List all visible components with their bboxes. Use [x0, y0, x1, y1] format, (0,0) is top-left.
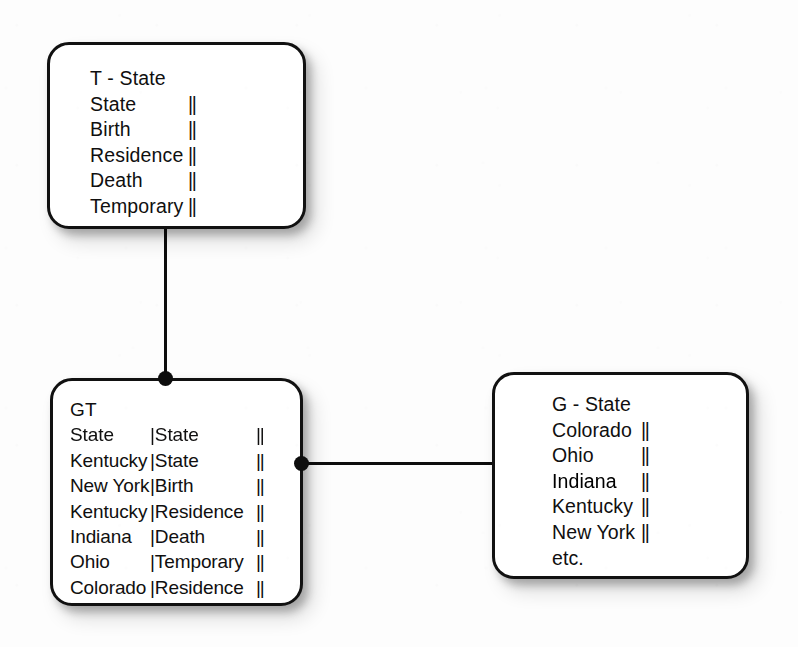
node-t-state-content: T - State State || Birth || Residence ||…: [50, 45, 343, 219]
node-g-state-row: New York ||: [552, 520, 798, 546]
gt-state-label: Ohio: [70, 549, 150, 574]
g-state-bars: ||: [641, 418, 649, 444]
node-g-state-title-text: G - State: [552, 392, 631, 418]
node-gt[interactable]: GT State |State || Kentucky |State || Ne…: [50, 378, 303, 606]
node-g-state-row: Kentucky ||: [552, 494, 798, 520]
node-t-state-row: Death ||: [90, 168, 343, 194]
gt-state-label: Kentucky: [70, 499, 150, 524]
g-state-label: Indiana: [552, 469, 641, 495]
node-t-state[interactable]: T - State State || Birth || Residence ||…: [47, 42, 306, 229]
node-g-state-row: Indiana ||: [552, 469, 798, 495]
attribute-label: Birth: [90, 117, 188, 143]
g-state-bars: ||: [641, 494, 649, 520]
attribute-label: State: [90, 92, 188, 118]
edge-endpoint-dot-gt-top: [158, 371, 173, 386]
node-t-state-title: T - State: [90, 66, 343, 92]
edge-tstate-to-gt: [164, 226, 167, 380]
g-state-label: Kentucky: [552, 494, 641, 520]
node-gt-row: New York |Birth ||: [70, 473, 317, 498]
gt-state-label: Indiana: [70, 524, 150, 549]
node-gt-row: Indiana |Death ||: [70, 524, 317, 549]
gt-bars: ||: [256, 549, 263, 574]
edge-gt-to-gstate: [300, 462, 494, 465]
edge-endpoint-dot-gt-right: [294, 456, 309, 471]
attribute-bars: ||: [188, 194, 196, 220]
node-gt-row: State |State ||: [70, 422, 317, 447]
node-t-state-title-text: T - State: [90, 66, 166, 92]
gt-bars: ||: [256, 473, 263, 498]
gt-attribute-label: |Death: [150, 524, 256, 549]
node-gt-row: Kentucky |Residence ||: [70, 499, 317, 524]
gt-attribute-label: |Residence: [150, 499, 256, 524]
node-gt-content: GT State |State || Kentucky |State || Ne…: [53, 381, 317, 600]
node-gt-row: Ohio |Temporary ||: [70, 549, 317, 574]
g-state-label: Colorado: [552, 418, 641, 444]
gt-bars: ||: [256, 575, 263, 600]
gt-attribute-label: |State: [150, 422, 256, 447]
attribute-label: Death: [90, 168, 188, 194]
node-gt-row: Colorado |Residence ||: [70, 575, 317, 600]
gt-bars: ||: [256, 499, 263, 524]
node-t-state-row: Birth ||: [90, 117, 343, 143]
gt-state-label: Colorado: [70, 575, 150, 600]
gt-attribute-label: |Temporary: [150, 549, 256, 574]
gt-bars: ||: [256, 422, 263, 447]
gt-attribute-label: |Residence: [150, 575, 256, 600]
g-state-bars: ||: [641, 469, 649, 495]
node-gt-title-text: GT: [70, 397, 97, 422]
attribute-label: Residence: [90, 143, 188, 169]
gt-attribute-label: |State: [150, 448, 256, 473]
node-g-state-row: etc.: [552, 546, 798, 572]
node-gt-row: Kentucky |State ||: [70, 448, 317, 473]
g-state-label: etc.: [552, 546, 641, 572]
gt-bars: ||: [256, 524, 263, 549]
gt-state-label: State: [70, 422, 150, 447]
attribute-label: Temporary: [90, 194, 188, 220]
node-t-state-row: Residence ||: [90, 143, 343, 169]
g-state-label: New York: [552, 520, 641, 546]
node-gt-title: GT: [70, 397, 317, 422]
node-g-state-content: G - State Colorado || Ohio || Indiana ||…: [495, 375, 798, 571]
node-g-state-title: G - State: [552, 392, 798, 418]
node-t-state-row: Temporary ||: [90, 194, 343, 220]
gt-state-label: Kentucky: [70, 448, 150, 473]
node-t-state-row: State ||: [90, 92, 343, 118]
gt-state-label: New York: [70, 473, 150, 498]
attribute-bars: ||: [188, 92, 196, 118]
node-g-state-row: Ohio ||: [552, 443, 798, 469]
g-state-bars: ||: [641, 443, 649, 469]
node-g-state[interactable]: G - State Colorado || Ohio || Indiana ||…: [492, 372, 749, 579]
g-state-label: Ohio: [552, 443, 641, 469]
attribute-bars: ||: [188, 117, 196, 143]
diagram-canvas: T - State State || Birth || Residence ||…: [0, 0, 798, 647]
node-g-state-row: Colorado ||: [552, 418, 798, 444]
attribute-bars: ||: [188, 143, 196, 169]
g-state-bars: ||: [641, 520, 649, 546]
gt-attribute-label: |Birth: [150, 473, 256, 498]
gt-bars: ||: [256, 448, 263, 473]
attribute-bars: ||: [188, 168, 196, 194]
